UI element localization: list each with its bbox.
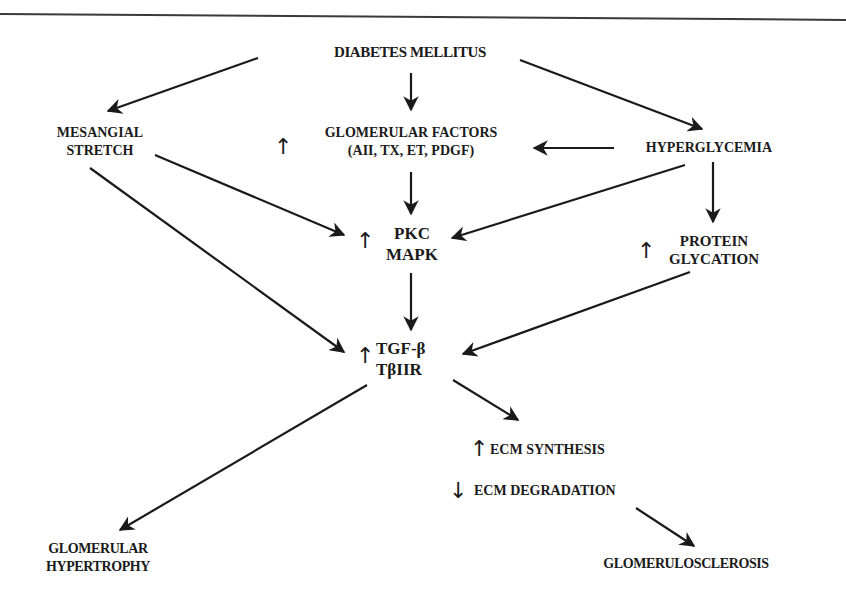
- node-tgf-beta: TGF-β TβIIR: [376, 338, 456, 380]
- edge-ecm-degradation-to-glomerulosclerosis: [636, 508, 694, 546]
- node-protein-glycation: PROTEIN GLYCATION: [654, 232, 774, 268]
- node-mesangial-stretch: MESANGIAL STRETCH: [40, 124, 160, 160]
- increase-arrow-icon: ↑: [274, 136, 292, 158]
- node-ecm-synthesis: ECM SYNTHESIS: [490, 441, 650, 459]
- node-pkc-mapk: PKC MAPK: [372, 223, 452, 265]
- edge-diabetes-to-mesangial: [108, 58, 258, 111]
- node-glomerulosclerosis: GLOMERULOSCLEROSIS: [566, 555, 806, 573]
- node-label: MAPK: [372, 244, 452, 265]
- node-label: HYPERTROPHY: [38, 558, 158, 576]
- diagram-canvas: DIABETES MELLITUS MESANGIAL STRETCH ↑ GL…: [0, 0, 846, 611]
- node-hyperglycemia: HYPERGLYCEMIA: [624, 139, 794, 157]
- decrease-arrow-icon: ↓: [449, 480, 467, 502]
- node-label: ECM DEGRADATION: [474, 482, 654, 500]
- node-glomerular-hypertrophy: GLOMERULAR HYPERTROPHY: [38, 540, 158, 576]
- increase-arrow-icon: ↑: [356, 345, 374, 367]
- node-label: GLOMERULAR FACTORS: [296, 124, 526, 142]
- node-label: STRETCH: [40, 142, 160, 160]
- node-label: GLOMERULAR: [38, 540, 158, 558]
- edge-tgf-to-hypertrophy: [120, 385, 367, 530]
- edge-protein-glycation-to-tgf: [463, 272, 690, 354]
- increase-arrow-icon: ↑: [637, 240, 655, 262]
- arrow-layer: [0, 0, 846, 611]
- node-label: GLOMERULOSCLEROSIS: [566, 555, 806, 573]
- node-label: PKC: [372, 223, 452, 244]
- node-label: TβIIR: [376, 359, 456, 380]
- node-ecm-degradation: ECM DEGRADATION: [474, 482, 654, 500]
- node-diabetes-mellitus: DIABETES MELLITUS: [300, 43, 520, 61]
- node-label: GLYCATION: [654, 250, 774, 268]
- increase-arrow-icon: ↑: [470, 438, 488, 460]
- node-label: PROTEIN: [654, 232, 774, 250]
- edge-tgf-to-ecm-synthesis: [453, 380, 518, 420]
- node-label: ECM SYNTHESIS: [490, 441, 650, 459]
- node-label: TGF-β: [376, 338, 456, 359]
- edge-mesangial-to-pkc: [155, 155, 344, 235]
- node-label: MESANGIAL: [40, 124, 160, 142]
- edge-mesangial-to-tgf: [90, 168, 344, 352]
- node-glomerular-factors: GLOMERULAR FACTORS (AII, TX, ET, PDGF): [296, 124, 526, 160]
- node-label: (AII, TX, ET, PDGF): [296, 142, 526, 160]
- edge-hyperglycemia-to-pkc: [452, 165, 685, 238]
- node-label: HYPERGLYCEMIA: [624, 139, 794, 157]
- edge-diabetes-to-hyperglycemia: [520, 60, 702, 129]
- node-label: DIABETES MELLITUS: [300, 43, 520, 61]
